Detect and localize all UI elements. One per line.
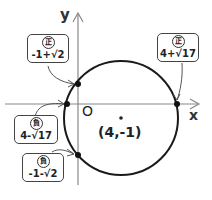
label-x-negative: 負 4-√17 (14, 115, 58, 144)
x-axis-label: x (189, 107, 198, 123)
value-y-negative: -1-√2 (23, 168, 63, 181)
center-point (119, 116, 123, 120)
origin-label: O (82, 103, 93, 119)
point-y-positive (75, 81, 81, 87)
negative-sign-icon: 負 (37, 155, 50, 168)
positive-sign-icon: 正 (42, 36, 55, 49)
label-x-positive: 正 4+√17 (157, 33, 199, 62)
point-y-negative (75, 152, 81, 158)
positive-sign-icon: 正 (172, 35, 185, 48)
label-y-positive: 正 -1+√2 (27, 34, 69, 63)
value-x-negative: 4-√17 (15, 130, 57, 143)
x-axis (5, 99, 199, 109)
y-axis-label: y (60, 6, 70, 24)
center-label: (4,-1) (98, 124, 141, 140)
value-x-positive: 4+√17 (158, 48, 198, 61)
label-y-negative: 負 -1-√2 (22, 153, 64, 182)
point-x-positive (174, 101, 180, 107)
negative-sign-icon: 負 (30, 117, 43, 130)
value-y-positive: -1+√2 (28, 49, 68, 62)
